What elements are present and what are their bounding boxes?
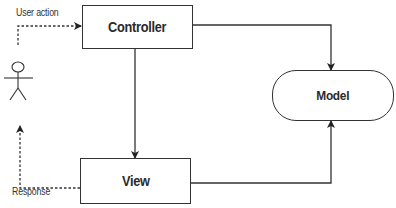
- controller-node[interactable]: Controller: [82, 5, 193, 49]
- model-label: Model: [317, 88, 350, 103]
- controller-label: Controller: [108, 19, 166, 35]
- user-action-label: User action: [16, 7, 59, 18]
- view-to-model-connector: [190, 121, 331, 183]
- view-label: View: [122, 173, 150, 189]
- user-action-connector: [18, 26, 81, 45]
- view-node[interactable]: View: [80, 158, 191, 204]
- response-label: Response: [12, 186, 50, 197]
- response-connector: [20, 126, 80, 188]
- model-node[interactable]: Model: [272, 70, 394, 121]
- controller-to-model-connector: [192, 25, 331, 70]
- user-actor-icon: [4, 62, 33, 100]
